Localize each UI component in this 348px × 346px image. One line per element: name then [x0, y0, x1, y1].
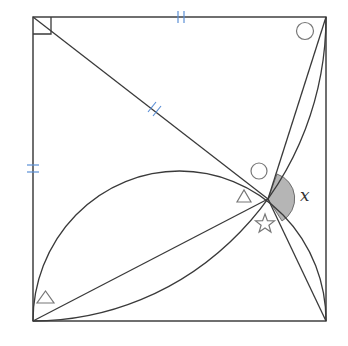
star-marker — [256, 214, 275, 232]
circle-marker-near-p — [251, 163, 267, 179]
segment-bottomleft-to-p — [33, 199, 268, 321]
circle-marker-top-right — [297, 23, 314, 40]
triangle-marker-bottom-left — [37, 291, 54, 303]
segment-topright-to-p — [268, 17, 326, 199]
triangle-marker-near-p — [237, 190, 251, 202]
angle-label-x: x — [300, 185, 310, 205]
segment-p-to-bottomright — [268, 199, 326, 321]
square — [33, 17, 326, 321]
geometry-diagram: x — [0, 0, 348, 346]
quarter-circle-arc — [33, 17, 326, 321]
